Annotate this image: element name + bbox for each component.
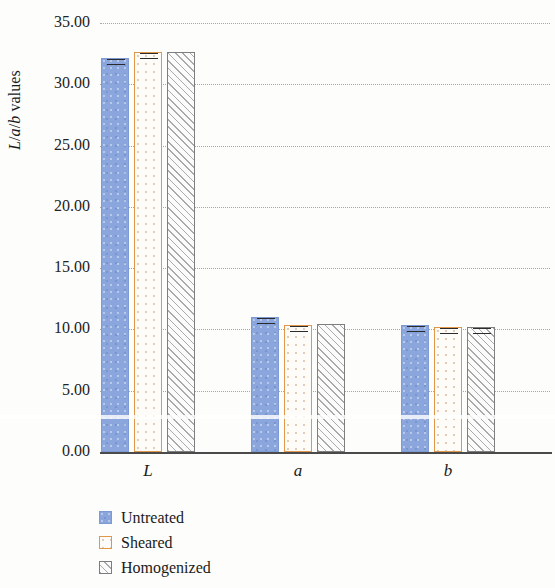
error-bar: [107, 59, 125, 65]
y-tick-label: 0.00: [28, 443, 90, 459]
bar[interactable]: [401, 325, 429, 452]
x-axis-line: [100, 452, 552, 454]
bar[interactable]: [134, 52, 162, 452]
y-tick-label: 20.00: [28, 198, 90, 214]
bar[interactable]: [101, 58, 129, 452]
bar-group: [251, 23, 345, 452]
y-tick-label: 5.00: [28, 382, 90, 398]
x-tick-label: b: [388, 461, 508, 481]
y-axis-title-slash2: /: [6, 124, 23, 129]
bar-group: [101, 23, 195, 452]
y-tick-label: 15.00: [28, 259, 90, 275]
y-axis-title: L/a/b values: [6, 0, 24, 150]
y-axis-title-b: b: [6, 116, 23, 124]
hatched-gray-square-icon: [99, 561, 112, 574]
orange-outline-square-icon: [99, 536, 112, 549]
solid-blue-square-icon: [99, 511, 112, 524]
y-tick-label: 25.00: [28, 137, 90, 153]
legend-label: Sheared: [121, 534, 173, 552]
y-axis-tick-labels: 0.005.0010.0015.0020.0025.0030.0035.00: [28, 0, 90, 588]
legend: UntreatedShearedHomogenized: [99, 505, 211, 580]
plot-area: [100, 23, 550, 452]
y-axis-title-slash1: /: [6, 136, 23, 141]
y-tick-label: 10.00: [28, 320, 90, 336]
legend-label: Homogenized: [121, 559, 211, 577]
legend-label: Untreated: [121, 509, 184, 527]
bar[interactable]: [284, 325, 312, 452]
bar-group: [401, 23, 495, 452]
bar[interactable]: [467, 327, 495, 452]
error-bar: [290, 326, 308, 332]
bar[interactable]: [317, 324, 345, 452]
y-axis-title-a: a: [6, 128, 23, 136]
y-axis-title-rest: values: [6, 70, 23, 116]
legend-item[interactable]: Untreated: [99, 505, 211, 530]
error-bar: [407, 326, 425, 332]
y-tick-label: 35.00: [28, 14, 90, 30]
error-bar: [440, 328, 458, 334]
y-axis-title-l: L: [6, 141, 23, 150]
error-bar: [140, 53, 158, 59]
bar[interactable]: [434, 327, 462, 452]
x-tick-label: a: [238, 461, 358, 481]
x-tick-label: L: [88, 461, 208, 481]
bar[interactable]: [251, 317, 279, 452]
y-tick-label: 30.00: [28, 75, 90, 91]
bar-chart-figure: L/a/b values 0.005.0010.0015.0020.0025.0…: [0, 0, 555, 588]
bar[interactable]: [167, 52, 195, 452]
error-bar: [473, 328, 491, 334]
legend-item[interactable]: Sheared: [99, 530, 211, 555]
error-bar: [257, 318, 275, 324]
legend-item[interactable]: Homogenized: [99, 555, 211, 580]
